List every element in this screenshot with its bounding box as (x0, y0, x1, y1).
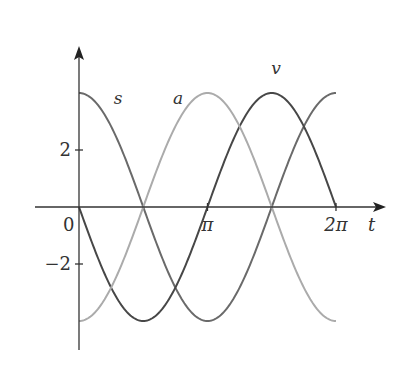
motion-graph: 0π2π2−2 svat (0, 0, 405, 375)
y-tick-label: 2 (60, 139, 71, 160)
curve-label-a: a (173, 88, 183, 108)
y-tick-label: −2 (44, 253, 71, 274)
x-tick-label: 2π (323, 214, 348, 235)
x-tick-label: π (201, 214, 215, 235)
x-tick-label: 0 (63, 214, 74, 235)
x-axis-label: t (368, 214, 376, 235)
curve-label-v: v (271, 58, 281, 78)
curve-label-s: s (114, 88, 123, 108)
